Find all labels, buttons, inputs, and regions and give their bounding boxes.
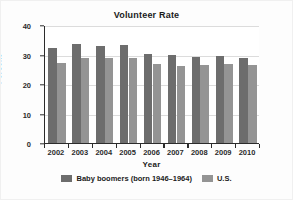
y-tick-label: 0: [9, 140, 31, 149]
x-tick-label-2004: 2004: [91, 148, 117, 157]
y-tick-label: 40: [9, 22, 31, 31]
bar-2008-boomers: [192, 57, 200, 143]
x-tick-label-2010: 2010: [234, 148, 260, 157]
bar-2010-boomers: [239, 58, 247, 143]
bar-2002-us: [57, 63, 65, 143]
x-tick-label-2009: 2009: [210, 148, 236, 157]
bar-2005-boomers: [120, 45, 128, 143]
chart-legend: Baby boomers (born 1946–1964)U.S.: [0, 174, 293, 183]
bar-2003-us: [81, 58, 89, 143]
legend-swatch-icon: [61, 175, 72, 182]
x-tick-label-2003: 2003: [67, 148, 93, 157]
legend-entry-boomers: Baby boomers (born 1946–1964): [61, 174, 191, 183]
bar-2006-us: [153, 64, 161, 143]
bar-2002-boomers: [48, 48, 56, 143]
y-axis-title: Percent: [0, 54, 3, 84]
bar-2008-us: [200, 65, 208, 143]
legend-entry-us: U.S.: [202, 174, 232, 183]
legend-label: Baby boomers (born 1946–1964): [76, 174, 191, 183]
bar-2007-us: [177, 66, 185, 143]
bar-2004-us: [105, 58, 113, 143]
x-tick-label-2008: 2008: [186, 148, 212, 157]
chart-title: Volunteer Rate: [0, 10, 293, 20]
x-axis-title: Year: [44, 160, 259, 169]
x-tick-label-2005: 2005: [115, 148, 141, 157]
x-tick-label-2002: 2002: [43, 148, 69, 157]
bar-2004-boomers: [96, 46, 104, 143]
y-tick-label: 30: [9, 51, 31, 60]
plot-area: [44, 26, 259, 144]
y-tick-label: 10: [9, 110, 31, 119]
x-tick-label-2006: 2006: [139, 148, 165, 157]
bar-2005-us: [129, 58, 137, 143]
bar-2009-boomers: [216, 56, 224, 143]
bar-2007-boomers: [168, 55, 176, 143]
legend-swatch-icon: [202, 175, 213, 182]
bar-2003-boomers: [72, 44, 80, 143]
bar-2009-us: [224, 64, 232, 143]
bar-2010-us: [248, 65, 256, 143]
x-tick-label-2007: 2007: [162, 148, 188, 157]
bar-2006-boomers: [144, 54, 152, 143]
y-tick-label: 20: [9, 81, 31, 90]
gridline: [45, 26, 259, 27]
legend-label: U.S.: [217, 174, 232, 183]
chart-figure: Volunteer Rate Percent 010203040 2002200…: [0, 0, 293, 200]
